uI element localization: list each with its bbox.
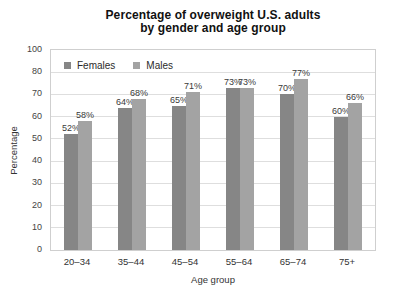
category-label-55-64: 55–64 — [226, 256, 252, 267]
y-tick-label-0: 0 — [37, 244, 42, 254]
bar-value-label: 66% — [346, 92, 364, 102]
bar-group-75: 60%66% — [321, 50, 375, 250]
bar-value-label: 68% — [130, 88, 148, 98]
y-tick-label-10: 10 — [32, 222, 42, 232]
bar-value-label: 77% — [292, 68, 310, 78]
y-tick-label-60: 60 — [32, 111, 42, 121]
bar-males-20-34: 58% — [78, 121, 92, 250]
category-label-35-44: 35–44 — [118, 256, 144, 267]
bar-group-45-54: 65%71% — [159, 50, 213, 250]
bar-females-55-64: 73% — [226, 88, 240, 250]
bar-males-45-54: 71% — [186, 92, 200, 250]
bar-females-20-34: 52% — [64, 134, 78, 250]
bar-group-35-44: 64%68% — [105, 50, 159, 250]
plot-area: FemalesMales 52%58%64%68%65%71%73%73%70%… — [50, 49, 376, 251]
bar-females-65-74: 70% — [280, 94, 294, 250]
chart-title: Percentage of overweight U.S. adults by … — [50, 9, 376, 35]
chart-title-line-2: by gender and age group — [50, 22, 376, 35]
bars-wrap: 52%58% — [64, 121, 92, 250]
bar-group-55-64: 73%73% — [213, 50, 267, 250]
x-axis-title: Age group — [50, 274, 376, 285]
x-axis: 20–3435–4445–5455–6465–7475+ — [50, 256, 376, 268]
bars-wrap: 64%68% — [118, 99, 146, 250]
bar-value-label: 71% — [184, 81, 202, 91]
y-tick-label-80: 80 — [32, 66, 42, 76]
category-label-45-54: 45–54 — [172, 256, 198, 267]
bars-wrap: 73%73% — [226, 88, 254, 250]
y-tick-label-50: 50 — [32, 133, 42, 143]
bars-wrap: 65%71% — [172, 92, 200, 250]
bar-value-label: 73% — [238, 77, 256, 87]
bar-group-65-74: 70%77% — [267, 50, 321, 250]
bar-females-35-44: 64% — [118, 108, 132, 250]
bar-females-75: 60% — [334, 117, 348, 250]
bar-males-35-44: 68% — [132, 99, 146, 250]
category-label-20-34: 20–34 — [64, 256, 90, 267]
overweight-adults-chart: Percentage of overweight U.S. adults by … — [0, 0, 396, 303]
bar-males-65-74: 77% — [294, 79, 308, 250]
y-tick-label-40: 40 — [32, 155, 42, 165]
y-tick-label-100: 100 — [27, 44, 42, 54]
y-tick-label-20: 20 — [32, 200, 42, 210]
bar-group-20-34: 52%58% — [51, 50, 105, 250]
bars-wrap: 70%77% — [280, 79, 308, 250]
y-tick-label-70: 70 — [32, 88, 42, 98]
y-tick-label-30: 30 — [32, 177, 42, 187]
bar-males-75: 66% — [348, 103, 362, 250]
bars-wrap: 60%66% — [334, 103, 362, 250]
y-axis: 10080706050403020100 — [0, 49, 46, 251]
category-label-75: 75+ — [339, 256, 355, 267]
bar-value-label: 58% — [76, 110, 94, 120]
bar-females-45-54: 65% — [172, 106, 186, 250]
bar-males-55-64: 73% — [240, 88, 254, 250]
category-label-65-74: 65–74 — [280, 256, 306, 267]
